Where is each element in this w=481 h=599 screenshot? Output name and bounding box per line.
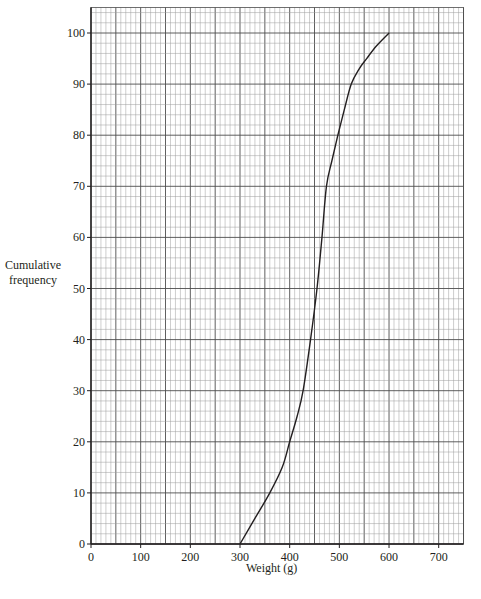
y-tick-label: 40 — [73, 333, 85, 347]
grid — [91, 7, 464, 544]
x-axis-label: Weight (g) — [246, 561, 366, 576]
x-tick-label: 200 — [181, 550, 199, 564]
y-axis-label: Cumulative frequency — [0, 258, 66, 288]
y-tick-label: 70 — [73, 179, 85, 193]
x-tick-label: 600 — [380, 550, 398, 564]
y-axis-label-line-1: Cumulative — [0, 258, 66, 273]
y-tick-label: 30 — [73, 384, 85, 398]
y-tick-label: 80 — [73, 128, 85, 142]
y-tick-label: 100 — [67, 26, 85, 40]
x-tick-label: 0 — [88, 550, 94, 564]
cumulative-frequency-chart: 0100200300400500600700010203040506070809… — [0, 0, 481, 599]
x-tick-label: 700 — [430, 550, 448, 564]
x-tick-label: 100 — [132, 550, 150, 564]
tick-labels: 0100200300400500600700010203040506070809… — [67, 26, 448, 564]
axes — [91, 7, 464, 544]
y-tick-label: 60 — [73, 230, 85, 244]
y-tick-label: 0 — [79, 537, 85, 551]
y-tick-label: 10 — [73, 486, 85, 500]
y-tick-label: 50 — [73, 282, 85, 296]
y-tick-label: 90 — [73, 77, 85, 91]
y-axis-label-line-2: frequency — [0, 273, 66, 288]
y-tick-label: 20 — [73, 435, 85, 449]
